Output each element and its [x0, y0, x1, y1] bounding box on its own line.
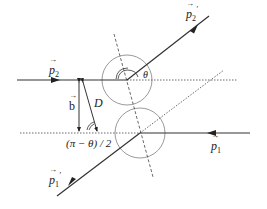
half-angle-arc [87, 122, 94, 130]
p2-prime-symbol: p [186, 8, 192, 20]
p1-prime-symbol: p [49, 174, 55, 186]
label-p1-incoming: p1 [211, 140, 221, 155]
label-b: b [69, 100, 75, 112]
p1-subscript: 1 [217, 146, 221, 155]
label-p1-outgoing: p1′ [49, 174, 61, 189]
label-D: D [94, 97, 103, 109]
p1-out-extension-dotted [140, 70, 224, 133]
p2-prime-subscript: 2 [192, 14, 196, 23]
p2-outgoing-arrow-icon [190, 25, 198, 34]
p2-prime-mark: ′ [196, 5, 198, 14]
label-p2-incoming: p2 [49, 64, 59, 79]
label-p2-outgoing: p2′ [186, 8, 198, 23]
p2-subscript: 2 [55, 70, 59, 79]
label-half-angle: (π − θ) / 2 [66, 138, 111, 149]
collision-diagram [0, 0, 267, 209]
p1-prime-subscript: 1 [55, 180, 59, 189]
b-symbol: b [69, 100, 75, 112]
p1-prime-mark: ′ [59, 171, 61, 180]
label-theta: θ [143, 70, 148, 80]
p2-symbol: p [49, 64, 55, 76]
p1-symbol: p [211, 140, 217, 152]
